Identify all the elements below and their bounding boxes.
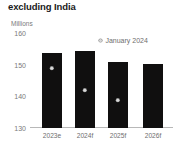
y-axis-tick-140: 140 [14, 93, 26, 100]
plot-area: 160 150 140 130 2023e 2024f 2025f 2026f [30, 33, 170, 128]
y-axis-tick-160: 160 [14, 30, 26, 37]
y-axis-tick-130: 130 [14, 125, 26, 132]
x-axis-tick-2024f: 2024f [77, 132, 94, 139]
chart-title: excluding India [8, 1, 76, 12]
bar-2025f[interactable] [108, 62, 128, 128]
x-axis-tick-2023e: 2023e [43, 132, 61, 139]
y-axis-unit-label: Millions [11, 20, 33, 27]
bar-2026f[interactable] [143, 64, 163, 128]
chart-container: excluding India Millions January 2024 16… [0, 0, 173, 147]
x-axis-tick-2026f: 2026f [145, 132, 162, 139]
bar-2023e[interactable] [42, 53, 62, 128]
x-axis-tick-2025f: 2025f [110, 132, 127, 139]
y-axis-tick-150: 150 [14, 61, 26, 68]
